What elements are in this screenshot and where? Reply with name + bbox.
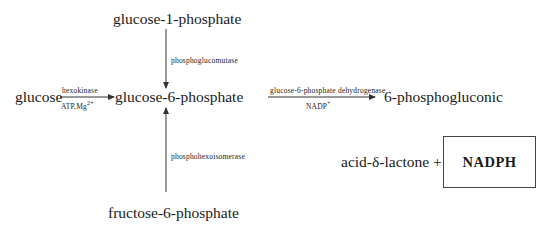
enzyme-hexokinase: hexokinase [62,86,98,95]
enzyme-g6pd: glucose-6-phosphate dehydrogenase [270,86,386,95]
enzyme-phosphohexoisomerase: phosphohexoisomerase [171,152,245,161]
pathway-arrows [0,0,547,230]
node-fructose-6-phosphate: fructose-6-phosphate [108,204,239,222]
node-glucose-1-phosphate: glucose-1-phosphate [113,10,241,28]
node-glucose: glucose [15,88,62,106]
enzyme-phosphoglucomutase: phosphoglucomutase [171,56,238,65]
cofactor-nadp: NADP+ [306,100,331,111]
node-6-phosphogluconic: 6-phosphogluconic [384,88,503,106]
node-nadph: NADPH [444,154,535,171]
node-glucose-6-phosphate: glucose-6-phosphate [115,88,243,106]
cofactor-atp-mg: ATP,Mg2+ [61,100,94,111]
nadph-box: NADPH [443,136,536,188]
node-acid-delta-lactone: acid-δ-lactone + [341,153,442,171]
